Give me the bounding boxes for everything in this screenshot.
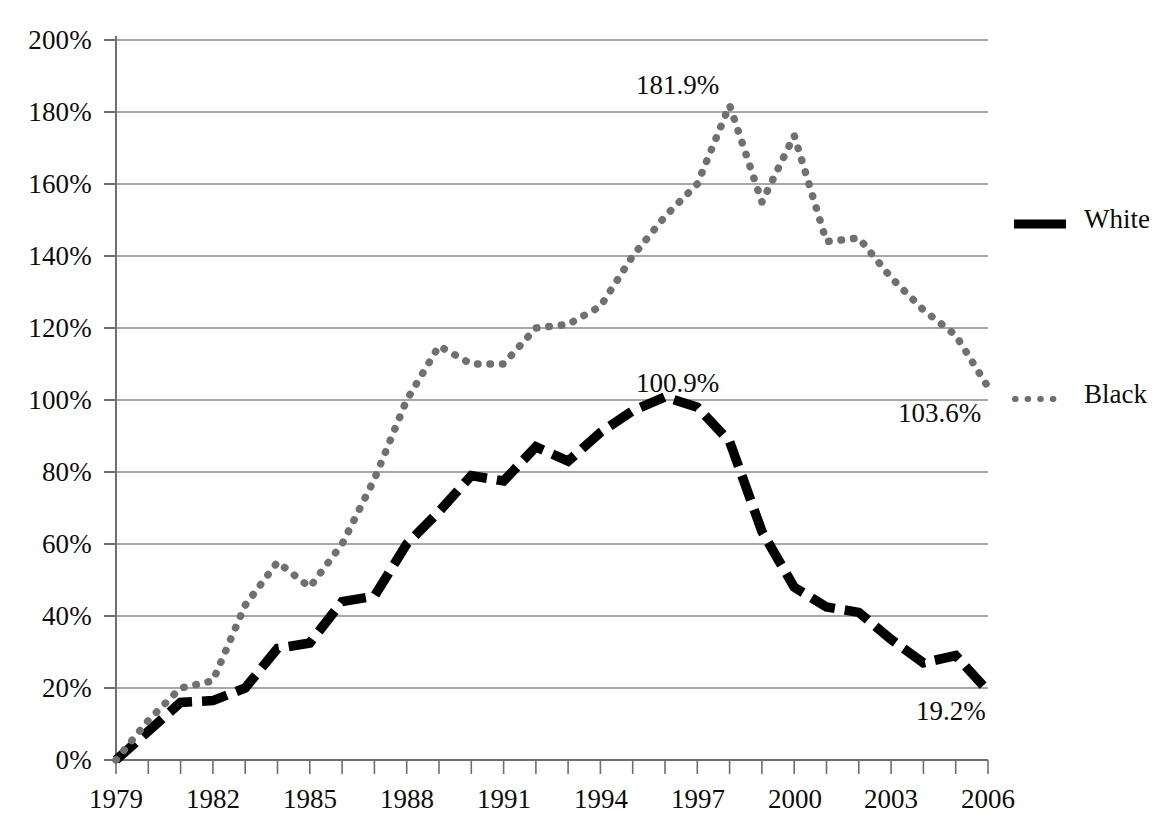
- y-tick-label-80: 80%: [0, 457, 92, 488]
- x-tick-label-1985: 1985: [254, 784, 366, 815]
- legend-label-black: Black: [1084, 381, 1147, 408]
- annotation-black-peak: 181.9%: [636, 70, 719, 101]
- chart-container: 200% 180% 160% 140% 120% 100% 80% 60% 40…: [0, 0, 1166, 836]
- series-line-white: [116, 397, 988, 760]
- y-tick-label-20: 20%: [0, 673, 92, 704]
- data-series-layer: [116, 105, 988, 760]
- x-tick-label-1994: 1994: [545, 784, 657, 815]
- gridlines: [116, 40, 988, 688]
- annotation-white-end: 19.2%: [916, 696, 986, 727]
- x-tick-label-1988: 1988: [351, 784, 463, 815]
- series-line-black: [116, 105, 988, 760]
- x-tick-label-1982: 1982: [157, 784, 269, 815]
- y-tick-label-0: 0%: [0, 745, 92, 776]
- y-axis-ticks: [104, 40, 116, 760]
- y-tick-label-60: 60%: [0, 529, 92, 560]
- dotted-line-swatch-icon: [1012, 385, 1068, 405]
- x-tick-label-2006: 2006: [932, 784, 1044, 815]
- legend-label-white: White: [1084, 206, 1150, 233]
- annotation-white-peak: 100.9%: [636, 368, 719, 399]
- y-tick-label-180: 180%: [0, 97, 92, 128]
- chart-plot-area: [0, 0, 1166, 836]
- y-tick-label-160: 160%: [0, 169, 92, 200]
- legend-item-black[interactable]: Black: [1012, 381, 1147, 408]
- legend-item-white[interactable]: White: [1012, 206, 1150, 233]
- x-axis-ticks: [116, 760, 988, 774]
- x-tick-label-2003: 2003: [835, 784, 947, 815]
- x-tick-label-1979: 1979: [60, 784, 172, 815]
- solid-line-swatch-icon: [1012, 210, 1068, 230]
- y-tick-label-40: 40%: [0, 601, 92, 632]
- annotation-black-end: 103.6%: [898, 398, 981, 429]
- y-tick-label-140: 140%: [0, 241, 92, 272]
- x-tick-label-1991: 1991: [448, 784, 560, 815]
- y-tick-label-120: 120%: [0, 313, 92, 344]
- x-tick-label-1997: 1997: [642, 784, 754, 815]
- y-tick-label-100: 100%: [0, 385, 92, 416]
- y-tick-label-200: 200%: [0, 25, 92, 56]
